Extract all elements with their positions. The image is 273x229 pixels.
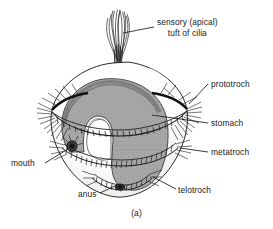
label-sensory-tuft-line2: tuft of cilia <box>157 28 218 39</box>
label-anus: anus <box>78 189 97 200</box>
figure-page: sensory (apical) tuft of cilia prototroc… <box>0 0 273 229</box>
gut-lumen-hollow <box>87 120 111 161</box>
label-telotroch: telotroch <box>178 185 211 196</box>
label-sensory-tuft: sensory (apical) tuft of cilia <box>157 17 218 38</box>
figure-caption: (a) <box>0 208 273 218</box>
trochophore-larva-diagram <box>0 0 273 229</box>
label-stomach: stomach <box>211 118 243 129</box>
label-mouth: mouth <box>11 158 35 169</box>
leader-prototroch <box>189 84 208 104</box>
label-prototroch: prototroch <box>211 79 250 90</box>
label-sensory-tuft-line1: sensory (apical) <box>157 17 218 28</box>
label-metatroch: metatroch <box>211 147 249 158</box>
